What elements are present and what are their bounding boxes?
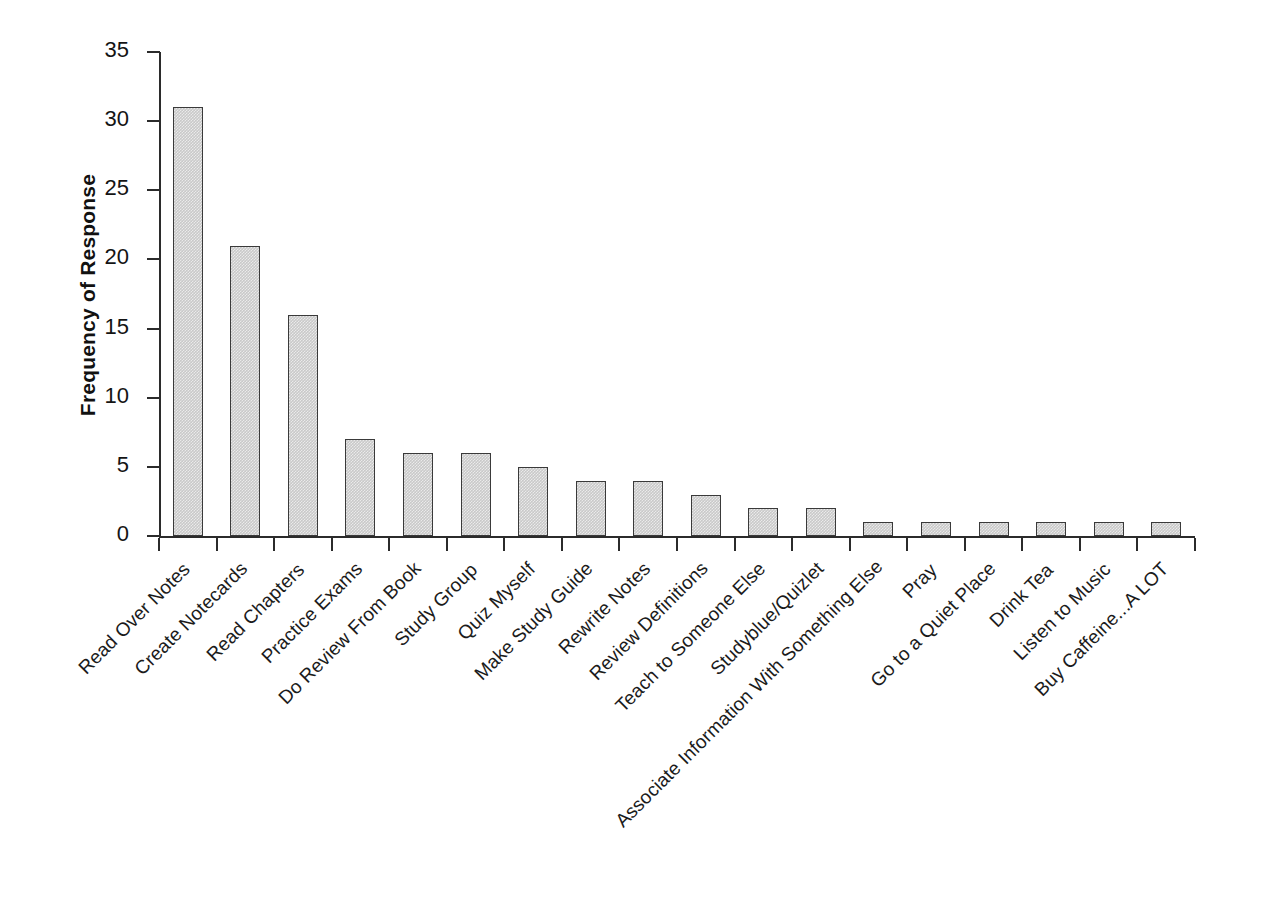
- y-axis-tick-label: 35: [9, 39, 129, 61]
- x-axis-tick: [1194, 538, 1196, 551]
- y-axis-tick: [147, 258, 160, 260]
- y-axis-tick-label: 30: [9, 108, 129, 130]
- x-axis-tick-label: Listen to Music: [1009, 558, 1115, 664]
- x-axis-tick: [791, 538, 793, 551]
- y-axis-tick: [147, 397, 160, 399]
- bar: [1036, 522, 1066, 536]
- bar: [230, 246, 260, 536]
- x-axis-tick: [446, 538, 448, 551]
- x-axis-tick: [273, 538, 275, 551]
- x-axis-tick: [1079, 538, 1081, 551]
- x-axis-tick: [676, 538, 678, 551]
- bar: [691, 495, 721, 536]
- x-axis-tick: [618, 538, 620, 551]
- y-axis-tick-label: 20: [9, 246, 129, 268]
- x-axis-tick-label: Pray: [899, 559, 942, 602]
- bar: [748, 508, 778, 536]
- bar: [863, 522, 893, 536]
- x-axis-tick: [503, 538, 505, 551]
- y-axis-tick-label: 15: [9, 316, 129, 338]
- y-axis-tick: [147, 189, 160, 191]
- bar: [345, 439, 375, 536]
- y-axis-tick-label: 5: [9, 454, 129, 476]
- y-axis-tick-label: 10: [9, 385, 129, 407]
- x-axis-tick: [331, 538, 333, 551]
- x-axis-tick: [964, 538, 966, 551]
- x-axis-tick: [906, 538, 908, 551]
- bar: [403, 453, 433, 536]
- x-axis-tick: [158, 538, 160, 551]
- y-axis-tick-label: 0: [9, 523, 129, 545]
- x-axis-tick: [734, 538, 736, 551]
- bar: [921, 522, 951, 536]
- x-axis-tick: [1021, 538, 1023, 551]
- x-axis-tick: [849, 538, 851, 551]
- bar: [461, 453, 491, 536]
- y-axis-tick: [147, 51, 160, 53]
- y-axis-tick: [147, 535, 160, 537]
- x-axis-tick: [388, 538, 390, 551]
- bar: [1151, 522, 1181, 536]
- bar: [288, 315, 318, 536]
- bar: [633, 481, 663, 536]
- bar-chart: 05101520253035 Frequency of Response Rea…: [0, 0, 1266, 897]
- bar: [806, 508, 836, 536]
- y-axis-tick: [147, 466, 160, 468]
- x-axis-tick: [1136, 538, 1138, 551]
- bar: [173, 107, 203, 536]
- x-axis-tick-label: Practice Exams: [257, 558, 367, 668]
- bar: [979, 522, 1009, 536]
- y-axis-tick: [147, 120, 160, 122]
- bar: [1094, 522, 1124, 536]
- bar: [518, 467, 548, 536]
- y-axis-tick: [147, 328, 160, 330]
- x-axis-tick: [216, 538, 218, 551]
- x-axis-tick: [561, 538, 563, 551]
- y-axis-tick-label: 25: [9, 177, 129, 199]
- x-axis-tick-label: Associate Information With Something Els…: [611, 556, 887, 832]
- y-axis-title: Frequency of Response: [76, 174, 100, 416]
- bar: [576, 481, 606, 536]
